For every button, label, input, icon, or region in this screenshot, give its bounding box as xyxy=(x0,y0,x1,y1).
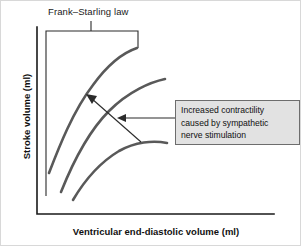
annotation-line-3: nerve stimulation xyxy=(181,129,299,142)
y-axis-label: Stroke volume (ml) xyxy=(21,52,32,182)
annotation-box: Increased contractility caused by sympat… xyxy=(175,100,300,145)
curve-high-contractility xyxy=(49,48,137,173)
frank-starling-bracket xyxy=(46,31,138,196)
chart-title: Frank–Starling law xyxy=(48,6,128,17)
annotation-line-1: Increased contractility xyxy=(181,104,299,117)
stroke-volume-chart-figure: Frank–Starling law Stroke volume (ml) Ve… xyxy=(0,0,301,246)
curve-low-contractility xyxy=(73,142,167,200)
annotation-line-2: caused by sympathetic xyxy=(181,117,299,130)
x-axis-label: Ventricular end-diastolic volume (ml) xyxy=(37,226,275,237)
annotation-pointer-head xyxy=(117,114,126,122)
curve-normal-contractility xyxy=(61,79,165,192)
